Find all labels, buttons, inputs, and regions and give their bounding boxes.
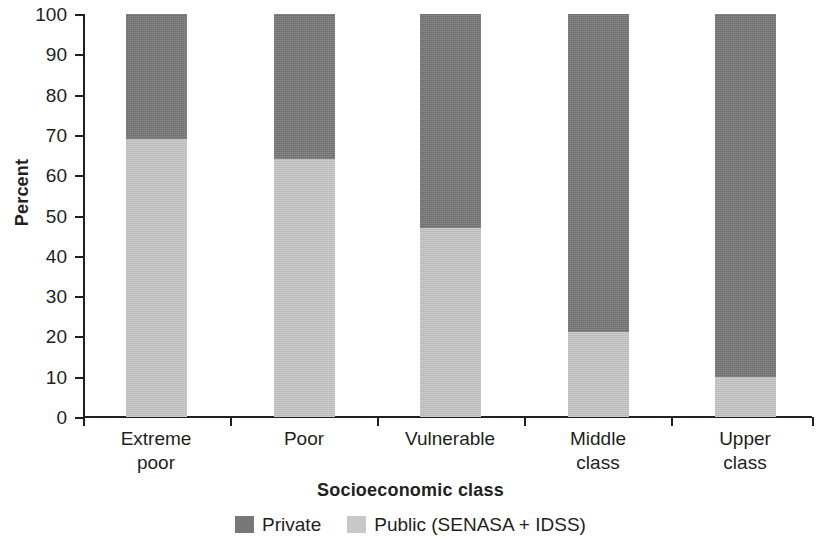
legend-item: Private xyxy=(235,515,321,534)
legend-label: Private xyxy=(262,515,321,534)
legend-item: Public (SENASA + IDSS) xyxy=(347,515,586,534)
legend-swatch-icon xyxy=(235,516,254,533)
plot-area xyxy=(83,14,812,417)
y-axis-tick-label: 30 xyxy=(5,287,67,306)
chart-legend: PrivatePublic (SENASA + IDSS) xyxy=(0,515,821,534)
bar-segment-public xyxy=(715,377,776,417)
y-axis-tick-label: 50 xyxy=(5,207,67,226)
x-axis-tick-mark xyxy=(83,417,85,426)
y-axis-tick-label: 80 xyxy=(5,86,67,105)
x-axis-tick-mark xyxy=(671,417,673,426)
x-axis-tick-mark xyxy=(524,417,526,426)
bar-group xyxy=(715,14,776,417)
y-axis-tick-label: 60 xyxy=(5,166,67,185)
y-axis-tick-label: 100 xyxy=(5,5,67,24)
y-axis-title: Percent xyxy=(12,133,33,253)
bar-group xyxy=(126,14,187,417)
bar-segment-private xyxy=(126,14,187,139)
y-axis-tick-label: 90 xyxy=(5,45,67,64)
bar-segment-public xyxy=(420,228,481,417)
x-axis-title: Socioeconomic class xyxy=(0,480,821,501)
x-axis-category-label: Middleclass xyxy=(518,427,678,475)
y-axis-tick-label: 20 xyxy=(5,327,67,346)
bar-group xyxy=(568,14,629,417)
bar-segment-private xyxy=(420,14,481,228)
x-axis-category-label: Upperclass xyxy=(665,427,821,475)
x-axis-tick-mark xyxy=(812,417,814,426)
x-axis-tick-mark xyxy=(230,417,232,426)
legend-swatch-icon xyxy=(347,516,366,533)
bar-group xyxy=(274,14,335,417)
legend-label: Public (SENASA + IDSS) xyxy=(374,515,586,534)
y-axis-tick-label: 0 xyxy=(5,408,67,427)
y-axis-tick-label: 40 xyxy=(5,247,67,266)
y-axis-tick-label: 10 xyxy=(5,368,67,387)
x-axis-category-label: Vulnerable xyxy=(370,427,530,451)
bar-segment-private xyxy=(568,14,629,332)
bar-segment-private xyxy=(715,14,776,377)
bar-segment-public xyxy=(568,332,629,417)
stacked-bar-chart-figure: Percent 0102030405060708090100 Extremepo… xyxy=(0,0,821,546)
bar-segment-public xyxy=(274,159,335,417)
bar-segment-public xyxy=(126,139,187,417)
y-axis-tick-label: 70 xyxy=(5,126,67,145)
x-axis-category-label: Poor xyxy=(224,427,384,451)
x-axis-tick-mark xyxy=(377,417,379,426)
x-axis-category-label: Extremepoor xyxy=(76,427,236,475)
bar-segment-private xyxy=(274,14,335,159)
bar-group xyxy=(420,14,481,417)
